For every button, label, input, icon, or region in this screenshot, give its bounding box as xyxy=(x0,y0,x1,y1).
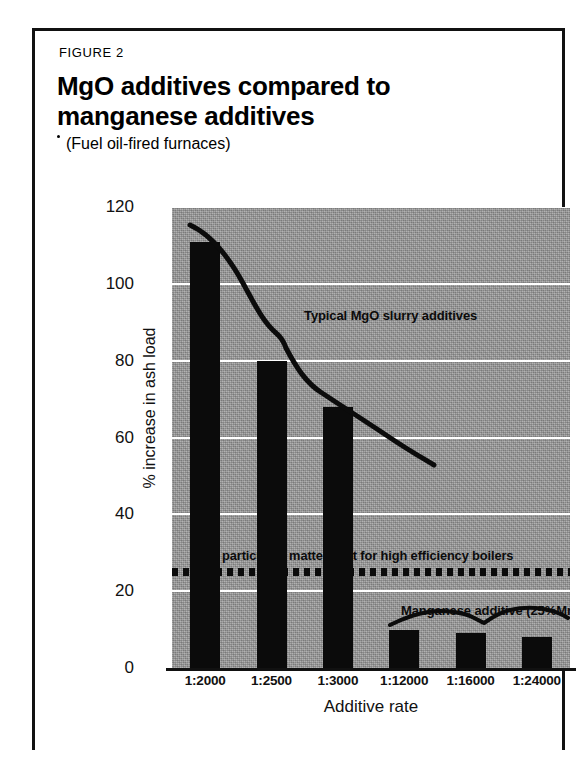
x-axis-line xyxy=(166,668,576,671)
gridline xyxy=(172,513,570,515)
bar xyxy=(456,633,486,668)
figure-title-line-2: manganese additives xyxy=(57,101,557,131)
annotation-manganese: Manganese additive (25%Mn) xyxy=(401,603,570,618)
x-axis-title: Additive rate xyxy=(172,697,570,717)
y-axis-tick-label: 100 xyxy=(74,274,134,294)
x-axis-tick-label: 1:2000 xyxy=(172,673,238,688)
bar xyxy=(190,242,220,668)
y-axis-tick-label: 40 xyxy=(74,504,134,524)
bar-chart: % increase in ash load 020406080100120 T… xyxy=(135,199,585,744)
figure-title-block: MgO additives compared to manganese addi… xyxy=(57,71,557,153)
epa-reference-line xyxy=(172,568,570,576)
y-axis-tick-label: 0 xyxy=(74,658,134,678)
annotation-epa-limit: EPA particulate matter limit for high ef… xyxy=(194,548,513,563)
y-axis-title: % increase in ash load xyxy=(141,298,159,518)
figure-title-line-1: MgO additives compared to xyxy=(57,71,557,101)
x-axis-tick-label: 1:3000 xyxy=(305,673,371,688)
gridline xyxy=(172,360,570,362)
x-axis-tick-label: 1:16000 xyxy=(437,673,503,688)
plot-area: Typical MgO slurry additives EPA particu… xyxy=(172,207,570,668)
bullet-icon xyxy=(57,135,60,138)
figure-number-label: FIGURE 2 xyxy=(59,45,124,60)
bar xyxy=(323,407,353,668)
x-axis-tick-label: 1:2500 xyxy=(238,673,304,688)
x-axis-tick-label: 1:12000 xyxy=(371,673,437,688)
y-axis-tick-label: 120 xyxy=(74,197,134,217)
bar xyxy=(389,630,419,668)
gridline xyxy=(172,590,570,592)
y-axis-tick-label: 80 xyxy=(74,351,134,371)
gridline xyxy=(172,437,570,439)
x-axis-tick-label: 1:24000 xyxy=(504,673,570,688)
gridline xyxy=(172,283,570,285)
figure-subtitle: (Fuel oil-fired furnaces) xyxy=(57,134,557,153)
y-axis-tick-label: 60 xyxy=(74,428,134,448)
figure-frame: FIGURE 2 MgO additives compared to manga… xyxy=(32,28,565,750)
y-axis-tick-label: 20 xyxy=(74,581,134,601)
annotation-mgo-slurry: Typical MgO slurry additives xyxy=(304,308,477,323)
bar xyxy=(522,637,552,668)
gridline xyxy=(172,207,570,208)
figure-subtitle-text: (Fuel oil-fired furnaces) xyxy=(66,135,231,152)
bar xyxy=(257,361,287,668)
